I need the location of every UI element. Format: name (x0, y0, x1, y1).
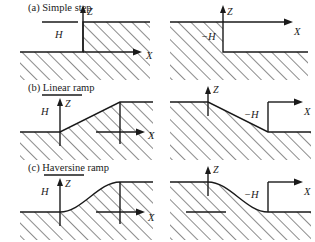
panel-c-left: Z X H (20, 160, 170, 240)
x-axis-label-c-right: X (304, 186, 310, 197)
ground-hatch-a-right (170, 22, 308, 80)
panel-b-left: Z X H (20, 80, 170, 160)
x-axis-label-a-left: X (146, 50, 152, 61)
z-axis-label-b-left: Z (65, 98, 71, 109)
x-axis-label-a-right: X (294, 26, 300, 37)
ground-hatch-c-right (170, 182, 311, 240)
z-axis-label-b-right: Z (213, 84, 219, 95)
x-axis-label-b-left: X (148, 130, 154, 141)
z-axis-label-a-left: Z (87, 6, 93, 17)
ground-hatch-c-left (20, 182, 153, 240)
ground-hatch-a-left (20, 22, 150, 80)
height-label-b-left: H (41, 106, 49, 117)
panel-c-right: Z X −H (168, 160, 315, 240)
figure-row-haversine-ramp: (c) Haversine ramp Z X H (0, 160, 315, 240)
ground-hatch-b-right (170, 102, 311, 160)
height-label-c-right: −H (244, 189, 259, 200)
z-axis-label-c-right: Z (213, 164, 219, 175)
x-axis-arrowhead-b-right (294, 99, 303, 106)
height-label-a-left: H (55, 29, 63, 40)
panel-a-left: Z X H (20, 0, 170, 80)
panel-a-right: Z X −H (168, 0, 315, 80)
z-axis-arrowhead-a-left (80, 5, 86, 13)
ground-hatch-b-left (20, 102, 153, 160)
figure-row-linear-ramp: (b) Linear ramp Z (0, 80, 315, 160)
height-label-a-right: −H (201, 31, 216, 42)
x-axis-arrowhead-c-right (294, 179, 303, 186)
x-axis-label-c-left: X (148, 212, 154, 223)
z-axis-label-c-left: Z (65, 178, 71, 189)
terrain-profile-figure: (a) Simple step (0, 0, 315, 242)
z-axis-label-a-right: Z (227, 6, 233, 17)
panel-b-right: Z X −H (168, 80, 315, 160)
z-axis-arrowhead-c-right (205, 166, 211, 174)
x-axis-label-b-right: X (304, 106, 310, 117)
z-axis-arrowhead-b-right (205, 86, 211, 94)
z-axis-arrowhead-b-left (57, 98, 63, 106)
height-label-c-left: H (41, 186, 49, 197)
figure-row-simple-step: (a) Simple step (0, 0, 315, 80)
z-axis-arrowhead-c-left (57, 178, 63, 186)
x-axis-arrowhead-a-right (284, 19, 293, 26)
height-label-b-right: −H (244, 109, 259, 120)
z-axis-arrowhead-a-right (220, 5, 226, 13)
